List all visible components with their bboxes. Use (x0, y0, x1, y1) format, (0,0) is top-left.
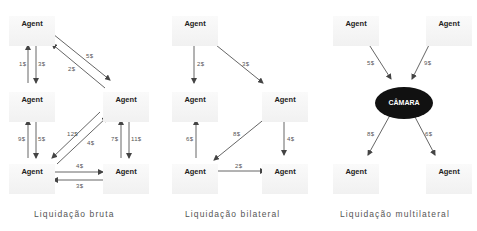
p1-flow-label-5: 5$ (86, 53, 93, 59)
p1-flow-label-3b: 3$ (76, 183, 83, 189)
arrow-p1-midright-to-topleft (52, 44, 105, 88)
p2-agent-mid-left: Agent (172, 92, 218, 122)
p2-flow-label-6: 6$ (186, 136, 193, 142)
p1-flow-label-2: 2$ (68, 66, 75, 72)
caption-multilateral-settlement: Liquidação multilateral (340, 209, 450, 219)
p2-flow-label-3: 3$ (242, 61, 249, 67)
p2-flow-label-4: 4$ (287, 136, 294, 142)
p1-agent-top-left: Agent (9, 16, 55, 46)
p2-agent-bottom-left: Agent (172, 164, 218, 194)
p1-agent-bottom-left: Agent (9, 164, 55, 194)
p3-agent-top-right: Agent (426, 16, 472, 46)
p1-flow-label-1: 1$ (19, 61, 26, 67)
p1-flow-label-12: 12$ (67, 131, 78, 137)
p3-flow-label-5: 5$ (367, 60, 374, 66)
p1-flow-label-4: 4$ (87, 140, 94, 146)
p1-flow-label-11: 11$ (131, 136, 141, 142)
p1-agent-mid-left: Agent (9, 92, 55, 122)
p2-agent-bottom-right: Agent (262, 164, 308, 194)
arrow-p2-topleft-to-midright (211, 41, 263, 83)
p3-agent-bottom-right: Agent (426, 164, 472, 194)
arrow-p1-bottomleft-to-midright (57, 117, 107, 164)
p2-agent-top-left: Agent (172, 16, 218, 46)
caption-bilateral-settlement: Liquidação bilateral (185, 209, 280, 219)
p1-flow-label-4b: 4$ (76, 163, 83, 169)
p1-flow-label-3: 3$ (38, 61, 45, 67)
arrow-p2-midright-to-bottomleft (214, 117, 267, 160)
p1-flow-label-7: 7$ (111, 136, 118, 142)
p2-flow-label-2: 2$ (197, 61, 204, 67)
p1-agent-bottom-right: Agent (103, 164, 149, 194)
p2-agent-mid-right: Agent (262, 92, 308, 122)
clearing-house-hub: CÂMARA (375, 87, 433, 119)
p3-agent-top-left: Agent (333, 16, 379, 46)
p3-flow-label-6: 6$ (425, 131, 432, 137)
settlement-diagram: Agent Agent Agent Agent Agent 1$ 3$ 5$ 2… (0, 0, 477, 231)
caption-gross-settlement: Liquidação bruta (34, 209, 114, 219)
p2-flow-label-2b: 2$ (235, 163, 242, 169)
p2-flow-label-8: 8$ (233, 131, 240, 137)
p1-flow-label-5b: 5$ (38, 136, 45, 142)
p3-flow-label-8: 8$ (367, 131, 374, 137)
p3-agent-bottom-left: Agent (333, 164, 379, 194)
p1-agent-mid-right: Agent (103, 92, 149, 122)
arrow-p1-topleft-to-midright (53, 34, 110, 80)
p3-flow-label-9: 9$ (424, 60, 431, 66)
p1-flow-label-9: 9$ (18, 136, 25, 142)
